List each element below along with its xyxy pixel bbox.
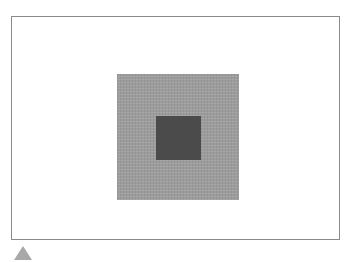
inner-dark-square xyxy=(156,116,201,160)
triangle-marker-icon xyxy=(14,246,32,260)
